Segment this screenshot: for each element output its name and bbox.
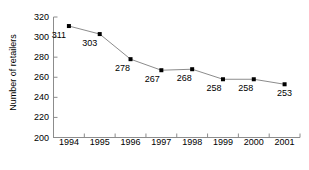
- x-axis-tick-label: 1995: [90, 138, 110, 147]
- x-axis-tick-label: 2000: [244, 138, 264, 147]
- data-marker: [159, 68, 163, 72]
- data-point-label: 278: [115, 64, 130, 73]
- x-axis-tick-labels: 19941995199619971998199920002001: [52, 136, 309, 154]
- x-axis-tick-label: 1997: [151, 138, 171, 147]
- data-marker: [129, 57, 133, 61]
- data-point-label: 253: [277, 89, 292, 98]
- x-axis-tick-label: 1996: [121, 138, 141, 147]
- x-axis-tick-label: 1998: [182, 138, 202, 147]
- data-point-label: 258: [238, 84, 253, 93]
- data-marker: [67, 24, 71, 28]
- data-marker: [252, 77, 256, 81]
- data-point-label: 258: [206, 84, 221, 93]
- data-marker: [283, 82, 287, 86]
- data-point-label: 268: [177, 74, 192, 83]
- data-marker: [221, 77, 225, 81]
- data-point-label: 311: [52, 31, 66, 40]
- retailers-line-chart: Number of retailers 20022024026028030032…: [0, 0, 309, 170]
- x-axis-tick-label: 2001: [275, 138, 295, 147]
- data-marker: [98, 32, 102, 36]
- data-point-label: 303: [82, 39, 97, 48]
- data-marker: [190, 67, 194, 71]
- x-axis-tick-label: 1994: [59, 138, 79, 147]
- data-point-label: 267: [145, 75, 160, 84]
- x-axis-tick-label: 1999: [213, 138, 233, 147]
